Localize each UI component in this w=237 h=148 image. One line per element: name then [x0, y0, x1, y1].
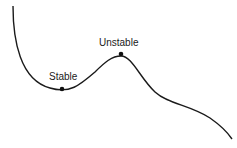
stable-point-marker [60, 87, 65, 92]
unstable-label: Unstable [99, 37, 139, 48]
unstable-point-marker [119, 52, 124, 57]
energy-landscape-diagram: Stable Unstable [0, 0, 237, 148]
potential-curve [13, 6, 232, 139]
stable-label: Stable [49, 71, 78, 82]
